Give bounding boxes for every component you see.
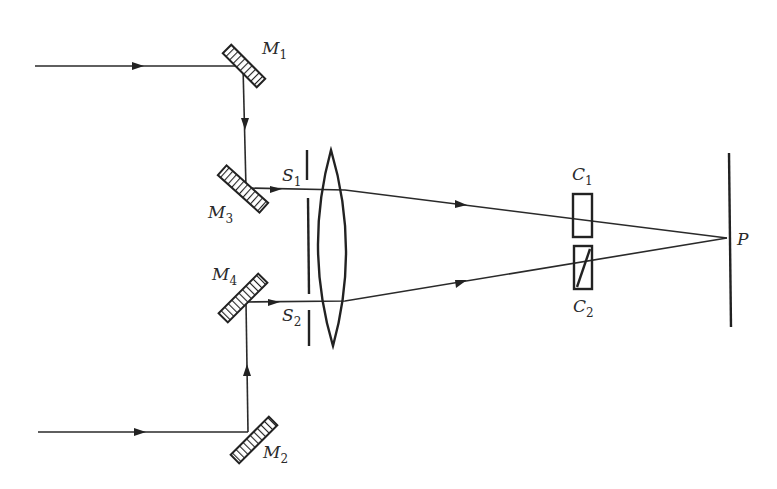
- label-m1: M1: [261, 38, 287, 62]
- label-m3: M3: [207, 202, 233, 226]
- label-c2: C2: [573, 296, 594, 320]
- label-s1: S1: [282, 165, 301, 189]
- label-s2: S2: [282, 305, 301, 329]
- arrow-right-icon: [455, 280, 467, 288]
- label-m4: M4: [211, 264, 237, 288]
- label-p: P: [736, 229, 749, 249]
- bottom-input-beam: [38, 428, 248, 436]
- arrow-right-icon: [455, 200, 467, 208]
- beam-m2-to-m4: [243, 302, 251, 432]
- arrow-up-icon: [243, 364, 251, 376]
- arrow-right-icon: [270, 186, 282, 193]
- biconvex-lens: [318, 150, 346, 346]
- top-input-beam: [35, 62, 243, 70]
- label-m2: M2: [262, 442, 288, 466]
- cell-c1: [573, 194, 592, 237]
- arrow-right-icon: [134, 428, 146, 436]
- optical-setup-diagram: M1 M3 S1 M4 S2 M2 C1 C2 P: [0, 0, 777, 489]
- beam-m1-to-m3: [241, 66, 249, 188]
- arrow-right-icon: [268, 299, 280, 306]
- observation-screen: [729, 153, 731, 327]
- slit-screen: [307, 150, 309, 346]
- arrow-down-icon: [241, 118, 249, 130]
- cell-c2: [574, 246, 592, 289]
- label-c1: C1: [572, 164, 593, 188]
- arrow-right-icon: [132, 62, 144, 70]
